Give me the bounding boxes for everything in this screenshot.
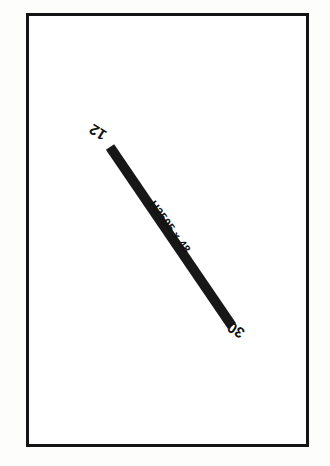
drawing-sheet: H2505 x 48 12 30 [0,0,330,466]
